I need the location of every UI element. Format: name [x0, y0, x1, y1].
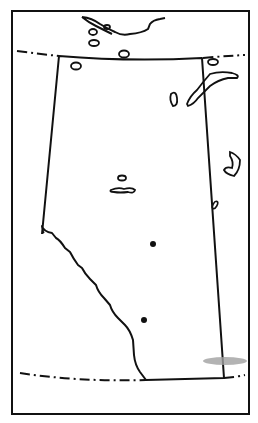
lake-east-hook	[224, 152, 240, 176]
parallel-north-dashed	[17, 51, 59, 56]
map-container	[0, 0, 258, 423]
city-marker-calgary	[141, 317, 147, 323]
lake-n2	[89, 40, 99, 46]
parallel-south-dashed-right	[224, 375, 245, 378]
great-slave-lake	[82, 17, 165, 35]
parallel-north-dashed-right	[203, 55, 245, 58]
scan-smudge	[203, 357, 247, 365]
alberta-map	[0, 0, 258, 423]
lake-right-top	[208, 59, 218, 65]
lesser-slave-lake	[110, 188, 135, 192]
lake-athabasca	[187, 72, 238, 106]
lake-right-small	[170, 93, 177, 106]
lake-n1	[89, 29, 97, 35]
city-marker-edmonton	[150, 241, 156, 247]
province-border	[42, 56, 224, 380]
lake-center-small	[118, 176, 126, 181]
parallel-south-dashed	[20, 373, 146, 380]
lake-claire	[71, 63, 81, 70]
lake-n3	[119, 51, 129, 58]
